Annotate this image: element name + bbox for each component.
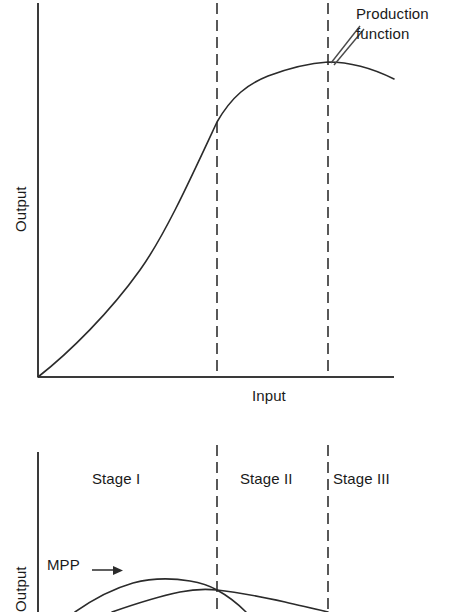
mpp-arrow-head: [113, 566, 123, 575]
stage-2-label: Stage II: [240, 470, 293, 487]
bottom-app-curve: [112, 589, 328, 612]
mpp-curve-label: MPP: [47, 556, 80, 573]
stage-1-label: Stage I: [92, 470, 140, 487]
figure-canvas: [0, 0, 476, 612]
top-panel-x-axis-label: Input: [252, 387, 286, 404]
figure-root: Production function Output Input Output …: [0, 0, 476, 612]
production-function-annotation-line1: Production: [356, 5, 429, 22]
bottom-mpp-curve: [75, 579, 246, 612]
production-function-annotation-line2: function: [356, 25, 409, 42]
top-production-function-curve: [38, 62, 394, 377]
bottom-panel-y-axis-label: Output: [12, 566, 29, 612]
top-panel-group: [38, 3, 394, 377]
production-function-annotation: Production function: [356, 4, 476, 45]
top-panel-y-axis-label: Output: [12, 186, 29, 232]
stage-3-label: Stage III: [333, 470, 390, 487]
